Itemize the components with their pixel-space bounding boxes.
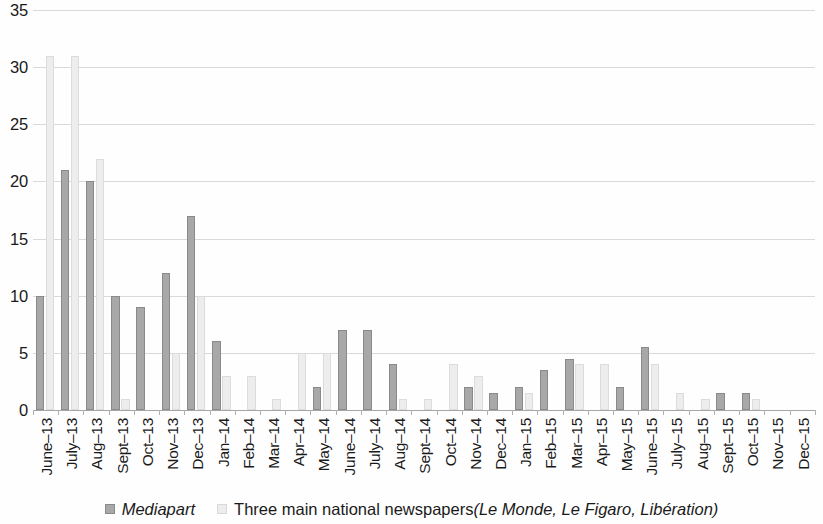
x-axis-labels: June–13July–13Aug–13Sept–13Oct–13Nov–13D… (33, 416, 815, 494)
x-axis-tick-label: Feb–15 (543, 418, 559, 469)
bar-newspapers (96, 159, 105, 410)
bar-newspapers (676, 393, 685, 410)
x-axis-label-cell: Feb–15 (537, 416, 562, 494)
bar-newspapers (474, 376, 483, 410)
bars-layer (33, 10, 815, 410)
x-axis-label-cell: Aug–13 (83, 416, 108, 494)
bar-mediapart (187, 216, 196, 410)
x-axis-label-cell: Oct–15 (739, 416, 764, 494)
bar-group (386, 10, 411, 410)
x-axis-label-cell: Mar–15 (563, 416, 588, 494)
legend-item-newspapers: Three main national newspapers (Le Monde… (217, 500, 718, 519)
x-axis-label-cell: Sept–14 (411, 416, 436, 494)
x-axis-tick-label: Dec–14 (493, 418, 509, 470)
x-axis-label-cell: Jan–15 (512, 416, 537, 494)
x-axis-tick-label: Mar–14 (266, 418, 282, 469)
x-axis-tick-label: Jan–15 (518, 418, 534, 467)
bar-group (184, 10, 209, 410)
bar-group (613, 10, 638, 410)
bar-newspapers (323, 353, 332, 410)
x-axis-label-cell: May–15 (613, 416, 638, 494)
x-axis-label-cell: Nov–13 (159, 416, 184, 494)
bar-newspapers (71, 56, 80, 410)
x-axis-tick-label: Dec–13 (190, 418, 206, 470)
y-axis-labels: 05101520253035 (0, 10, 33, 410)
bar-group (689, 10, 714, 410)
bar-group (714, 10, 739, 410)
x-axis-tick-label: Sept–14 (417, 418, 433, 474)
legend-item-mediapart: Mediapart (105, 500, 195, 519)
bar-newspapers (46, 56, 55, 410)
x-axis-tick-label: June–15 (644, 418, 660, 475)
x-axis-tick-label: Jan–14 (216, 418, 232, 467)
bar-mediapart (136, 307, 145, 410)
x-axis-tick-label: Sept–13 (115, 418, 131, 474)
bar-mediapart (540, 370, 549, 410)
bar-group (487, 10, 512, 410)
bar-group (437, 10, 462, 410)
x-axis-label-cell: Nov–14 (462, 416, 487, 494)
bar-group (638, 10, 663, 410)
bar-group (512, 10, 537, 410)
legend-swatch-newspapers (217, 504, 227, 514)
bar-newspapers (600, 364, 609, 410)
y-axis-tick-label: 20 (10, 173, 28, 190)
bar-mediapart (162, 273, 171, 410)
x-axis-label-cell: Aug–14 (386, 416, 411, 494)
y-axis-tick-label: 10 (10, 287, 28, 304)
bar-mediapart (464, 387, 473, 410)
y-axis-tick-label: 5 (19, 345, 28, 362)
y-axis-tick-label: 0 (19, 402, 28, 419)
bar-mediapart (515, 387, 524, 410)
x-axis-tick-label: July–15 (669, 418, 685, 469)
bar-mediapart (489, 393, 498, 410)
x-axis-tick-label: Sept–15 (720, 418, 736, 474)
x-axis-tick-label: May–14 (316, 418, 332, 471)
x-axis-label-cell: July–13 (58, 416, 83, 494)
bar-group (235, 10, 260, 410)
x-axis-label-cell: Dec–15 (790, 416, 815, 494)
y-axis-tick-label: 35 (10, 2, 28, 19)
bar-newspapers (172, 353, 181, 410)
bar-group (663, 10, 688, 410)
x-axis-label-cell: Feb–14 (235, 416, 260, 494)
x-axis-label-cell: Oct–14 (437, 416, 462, 494)
x-axis-tick-label: Oct–14 (443, 418, 459, 466)
bar-group (310, 10, 335, 410)
x-axis-label-cell: Dec–14 (487, 416, 512, 494)
x-axis-label-cell: Apr–15 (588, 416, 613, 494)
x-axis-label-cell: July–15 (663, 416, 688, 494)
plot-area (33, 10, 815, 410)
bar-newspapers (222, 376, 231, 410)
bar-mediapart (212, 341, 221, 410)
x-axis-tick-label: Aug–14 (392, 418, 408, 470)
x-axis-label-cell: May–14 (310, 416, 335, 494)
x-axis-tick-label: Dec–15 (796, 418, 812, 470)
x-axis-label-cell: June–14 (336, 416, 361, 494)
x-axis-label-cell: June–13 (33, 416, 58, 494)
x-axis-tick-label: June–13 (39, 418, 55, 475)
bar-group (33, 10, 58, 410)
bar-chart: 05101520253035 June–13July–13Aug–13Sept–… (0, 0, 823, 524)
bar-newspapers (298, 353, 307, 410)
bar-group (58, 10, 83, 410)
bar-mediapart (742, 393, 751, 410)
legend-label-mediapart: Mediapart (122, 500, 195, 519)
bar-group (537, 10, 562, 410)
bar-newspapers (449, 364, 458, 410)
x-axis-tick-label: May–15 (619, 418, 635, 471)
x-axis-tick-label: July–14 (367, 418, 383, 469)
bar-newspapers (525, 393, 534, 410)
x-axis-label-cell: June–15 (638, 416, 663, 494)
x-axis-label-cell: Sept–15 (714, 416, 739, 494)
bar-mediapart (313, 387, 322, 410)
bar-group (739, 10, 764, 410)
bar-mediapart (616, 387, 625, 410)
bar-newspapers (424, 399, 433, 410)
x-axis-tick-label: Aug–15 (695, 418, 711, 470)
y-axis-tick-label: 15 (10, 230, 28, 247)
x-axis-tick-label: Mar–15 (569, 418, 585, 469)
bar-mediapart (61, 170, 70, 410)
legend-swatch-mediapart (105, 504, 115, 514)
bar-group (159, 10, 184, 410)
